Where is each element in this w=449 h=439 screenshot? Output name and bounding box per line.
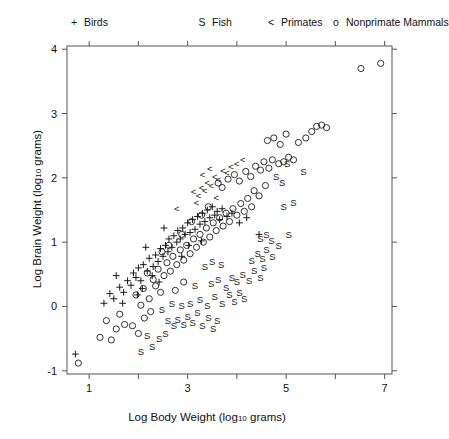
data-point bbox=[213, 227, 219, 233]
data-point bbox=[309, 128, 315, 134]
data-point: S bbox=[257, 272, 263, 283]
data-point bbox=[124, 277, 131, 284]
data-point bbox=[219, 184, 225, 190]
data-point bbox=[271, 135, 277, 141]
data-point bbox=[167, 268, 173, 274]
x-axis-title: Log Body Weight (log10 grams) bbox=[0, 411, 414, 423]
data-point bbox=[378, 60, 384, 66]
data-point bbox=[193, 244, 199, 250]
data-point bbox=[75, 360, 81, 366]
data-point bbox=[97, 334, 103, 340]
data-point bbox=[155, 258, 162, 265]
data-point: S bbox=[251, 265, 257, 276]
y-axis-title-tail: grams) bbox=[31, 130, 43, 169]
data-point bbox=[178, 253, 185, 260]
data-point: S bbox=[194, 307, 200, 318]
data-point bbox=[210, 220, 216, 226]
data-point bbox=[174, 262, 180, 268]
data-point: S bbox=[208, 278, 214, 289]
data-point bbox=[72, 351, 79, 358]
x-axis-title-subscript: 10 bbox=[238, 414, 247, 423]
data-point bbox=[161, 273, 167, 279]
y-axis-title-main: Log Brain Weight (log bbox=[31, 178, 43, 288]
data-point bbox=[177, 247, 183, 253]
data-point bbox=[150, 263, 157, 270]
data-point bbox=[323, 125, 329, 131]
data-point: S bbox=[138, 346, 144, 357]
y-tick-label: 1 bbox=[51, 236, 57, 248]
data-point bbox=[122, 321, 128, 327]
data-point: S bbox=[241, 293, 247, 304]
data-point: < bbox=[174, 203, 180, 214]
data-point: S bbox=[187, 298, 193, 309]
data-point bbox=[226, 218, 232, 224]
data-point bbox=[142, 244, 149, 251]
data-point bbox=[236, 219, 243, 226]
data-point bbox=[137, 277, 144, 284]
data-point bbox=[190, 236, 196, 242]
data-point bbox=[113, 326, 119, 332]
data-point bbox=[256, 193, 262, 199]
data-point: S bbox=[202, 261, 208, 272]
data-point bbox=[251, 188, 257, 194]
data-point: < bbox=[240, 154, 246, 165]
data-point bbox=[149, 272, 156, 279]
data-point bbox=[135, 330, 141, 336]
data-point bbox=[243, 214, 250, 221]
data-point bbox=[148, 309, 154, 315]
data-point: S bbox=[240, 269, 246, 280]
data-point: S bbox=[290, 197, 296, 208]
data-point bbox=[103, 318, 109, 324]
data-point: S bbox=[197, 294, 203, 305]
data-point: S bbox=[300, 166, 306, 177]
data-point bbox=[177, 236, 184, 243]
x-tick-label: 1 bbox=[86, 382, 92, 394]
data-point bbox=[140, 261, 147, 268]
y-tick-label: 4 bbox=[51, 43, 57, 55]
data-point bbox=[290, 157, 296, 163]
data-point bbox=[113, 272, 120, 279]
data-point bbox=[172, 287, 178, 293]
data-point bbox=[181, 279, 187, 285]
x-tick-label: 5 bbox=[283, 382, 289, 394]
data-point bbox=[243, 168, 249, 174]
data-point bbox=[141, 315, 147, 321]
data-point: S bbox=[269, 251, 275, 262]
data-point bbox=[181, 257, 187, 263]
data-point bbox=[234, 212, 240, 218]
data-point bbox=[160, 253, 167, 260]
data-point bbox=[303, 135, 309, 141]
data-point bbox=[129, 323, 135, 329]
data-point: S bbox=[209, 256, 215, 267]
data-point bbox=[150, 276, 156, 282]
data-point: S bbox=[189, 317, 195, 328]
data-point bbox=[166, 236, 173, 243]
data-point: S bbox=[192, 280, 198, 291]
data-point bbox=[157, 289, 163, 295]
data-point bbox=[257, 167, 263, 173]
data-point bbox=[155, 266, 161, 272]
data-point: S bbox=[219, 298, 225, 309]
plot-frame bbox=[67, 46, 392, 374]
y-tick-label: 2 bbox=[51, 172, 57, 184]
data-point bbox=[184, 219, 191, 226]
data-point: S bbox=[205, 312, 211, 323]
data-point: S bbox=[285, 229, 291, 240]
data-point bbox=[241, 208, 247, 214]
data-point: S bbox=[280, 201, 286, 212]
data-point: S bbox=[156, 333, 162, 344]
data-point: < bbox=[207, 163, 213, 174]
data-point bbox=[170, 253, 176, 259]
data-point bbox=[153, 283, 159, 289]
x-tick-label: 3 bbox=[185, 382, 191, 394]
data-point: S bbox=[214, 315, 220, 326]
data-point bbox=[269, 157, 275, 163]
data-point: S bbox=[276, 240, 282, 251]
data-point bbox=[230, 206, 236, 212]
data-point bbox=[277, 141, 283, 147]
data-point bbox=[170, 232, 177, 239]
data-point: S bbox=[204, 300, 210, 311]
data-point bbox=[192, 226, 199, 233]
data-point: S bbox=[223, 282, 229, 293]
